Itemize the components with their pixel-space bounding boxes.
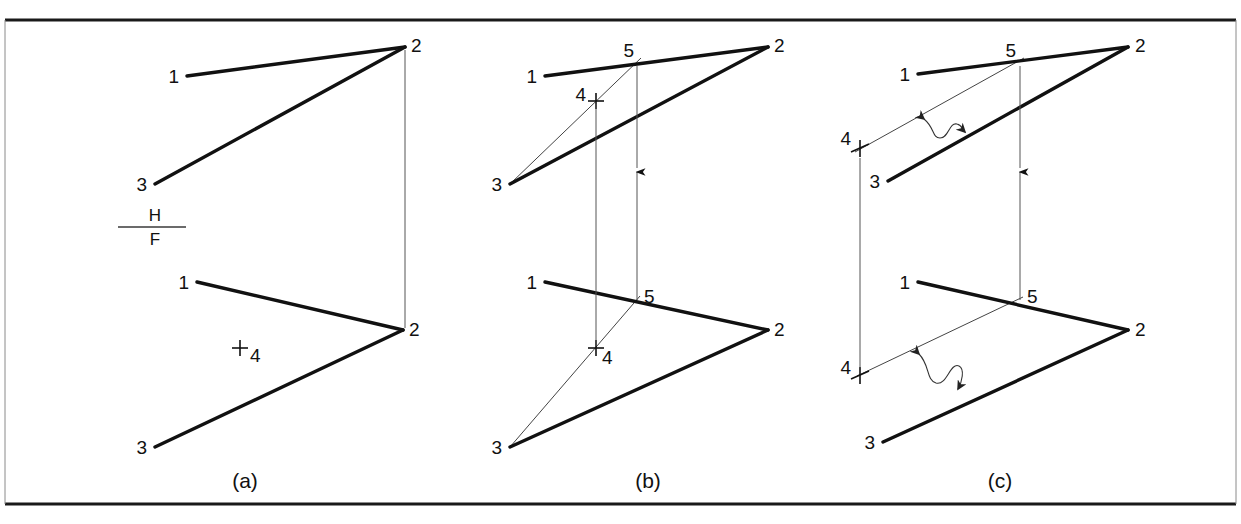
point-label-1-top-a: 1 <box>168 66 179 87</box>
point-label-3-front-b: 3 <box>491 437 502 458</box>
cross-mark-4-front-a <box>232 340 248 356</box>
point-label-3-top-b: 3 <box>491 174 502 195</box>
point-label-2-front-c: 2 <box>1135 319 1146 340</box>
cross-mark-4-front-c <box>851 367 869 384</box>
edge-1-2-top-a <box>187 47 405 76</box>
panel-c-top-view: 1 2 3 5 4 <box>840 35 1145 192</box>
edge-1-2-front-a <box>197 282 403 330</box>
point-label-1-front-b: 1 <box>526 272 537 293</box>
panel-a: 1 2 3 H F 1 2 3 4 <box>118 35 422 492</box>
edge-3-2-top-b <box>510 47 768 184</box>
point-label-3-front-a: 3 <box>136 437 147 458</box>
point-label-3-front-c: 3 <box>864 432 875 453</box>
point-label-3-top-a: 3 <box>136 174 147 195</box>
point-label-4-top-c: 4 <box>840 128 851 149</box>
panel-c-front-view: 1 2 3 5 4 <box>840 272 1145 453</box>
point-label-5-top-b: 5 <box>623 40 634 61</box>
point-label-5-top-c: 5 <box>1005 40 1016 61</box>
panel-caption-b: (b) <box>635 469 661 492</box>
panel-caption-a: (a) <box>232 469 258 492</box>
point-label-3-top-c: 3 <box>869 171 880 192</box>
point-label-4-front-c: 4 <box>840 357 851 378</box>
panel-b-top-view: 1 2 3 5 4 <box>491 35 784 195</box>
point-label-2-front-a: 2 <box>409 319 420 340</box>
edge-1-2-top-c <box>918 47 1128 74</box>
point-label-5-front-b: 5 <box>644 286 655 307</box>
point-label-2-top-a: 2 <box>411 35 422 56</box>
point-label-1-front-c: 1 <box>899 272 910 293</box>
panel-b: 1 2 3 5 4 1 2 3 5 <box>491 35 784 492</box>
edge-1-2-front-c <box>918 282 1128 330</box>
edge-3-2-front-b <box>510 330 768 447</box>
panel-a-top-view: 1 2 3 <box>136 35 421 195</box>
edge-1-2-top-b <box>545 47 768 76</box>
panel-a-front-view: 1 2 3 4 <box>136 272 419 458</box>
point-label-4-front-a: 4 <box>250 345 261 366</box>
construction-3-5-front-b <box>510 296 640 447</box>
point-label-2-front-b: 2 <box>774 319 785 340</box>
panel-a-fold-line: H F <box>118 206 186 249</box>
cross-mark-4-top-c <box>851 140 869 157</box>
point-label-1-top-c: 1 <box>899 64 910 85</box>
figure-root: 1 2 3 H F 1 2 3 4 <box>0 0 1241 524</box>
fold-label-h-a: H <box>149 206 161 225</box>
engineering-drawing-svg: 1 2 3 H F 1 2 3 4 <box>0 0 1241 524</box>
point-label-4-front-b: 4 <box>602 347 613 368</box>
edge-3-2-front-a <box>155 330 403 447</box>
point-label-1-front-a: 1 <box>178 272 189 293</box>
panel-caption-c: (c) <box>988 469 1013 492</box>
edge-3-2-front-c <box>883 330 1128 442</box>
point-label-2-top-b: 2 <box>774 35 785 56</box>
squiggle-arrow-front-c <box>919 354 962 389</box>
squiggle-arrow-top-c <box>924 119 965 138</box>
construction-4-5-front-c <box>857 297 1023 376</box>
panel-b-front-view: 1 2 3 5 4 <box>491 272 784 458</box>
edge-3-2-top-a <box>155 47 405 184</box>
panel-c: 1 2 3 5 4 1 2 3 5 <box>840 35 1145 492</box>
point-label-1-top-b: 1 <box>526 66 537 87</box>
point-label-2-top-c: 2 <box>1135 35 1146 56</box>
point-label-5-front-c: 5 <box>1027 286 1038 307</box>
fold-label-f-a: F <box>150 230 160 249</box>
point-label-4-top-b: 4 <box>575 84 586 105</box>
edge-1-2-front-b <box>545 282 768 330</box>
